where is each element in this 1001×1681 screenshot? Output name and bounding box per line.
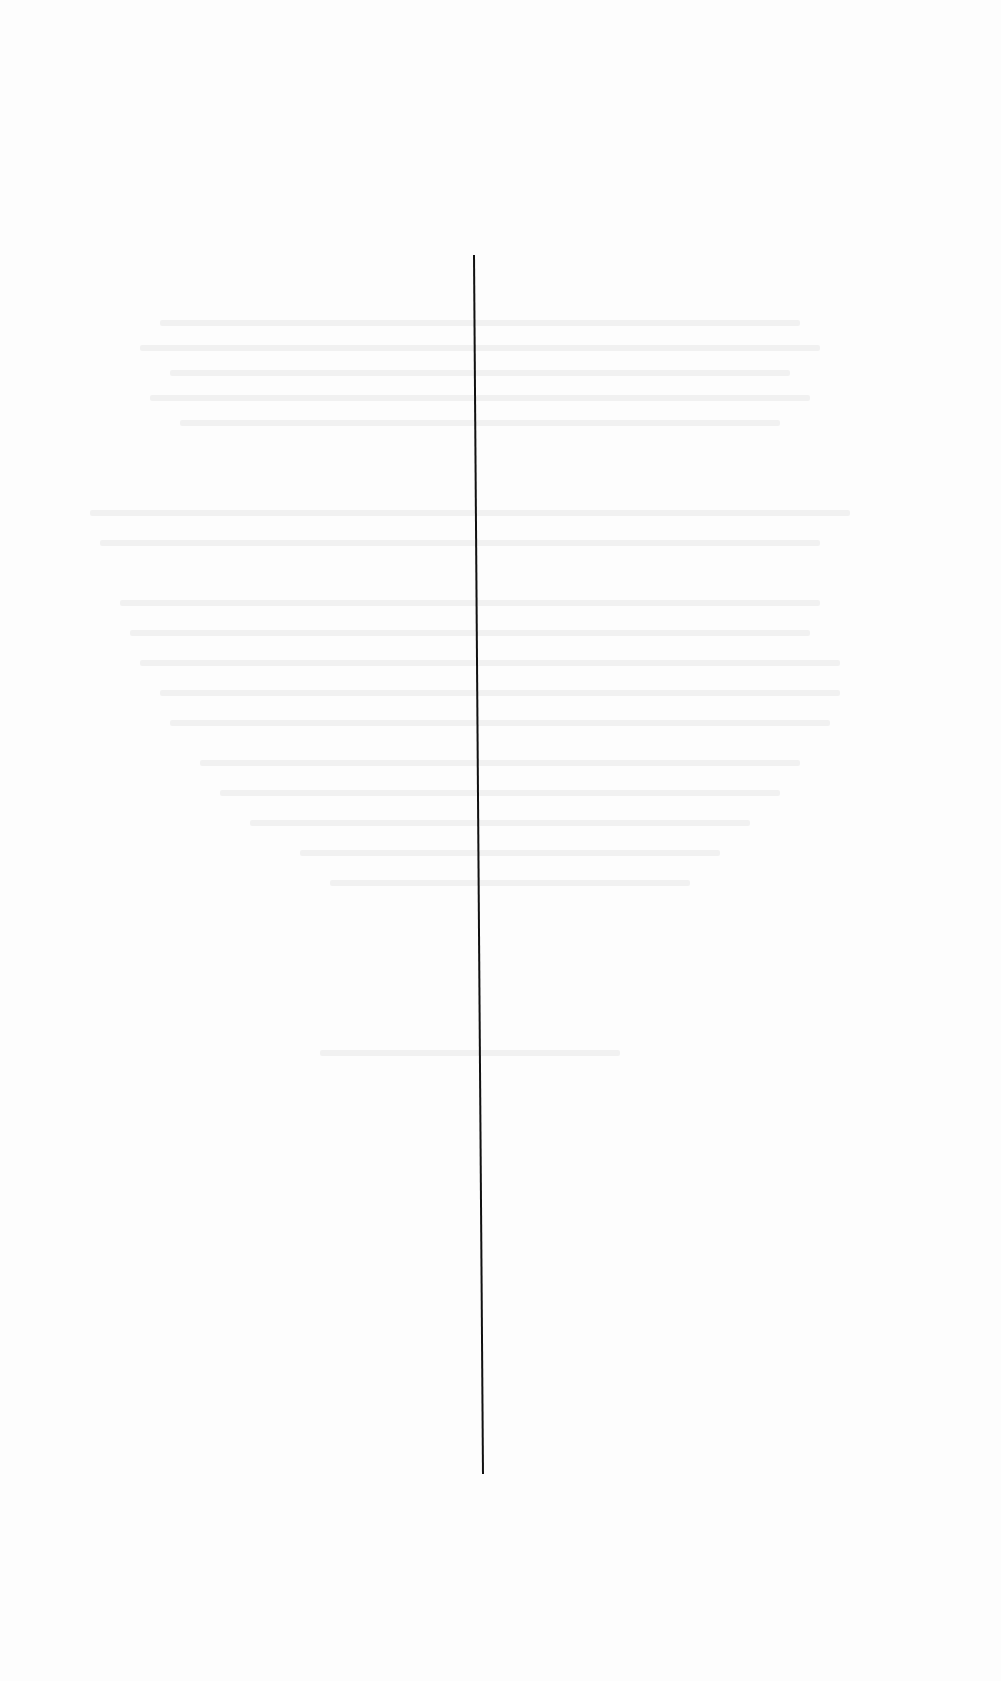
- vertical-rule: [0, 0, 1001, 1681]
- scanned-page: [0, 0, 1001, 1681]
